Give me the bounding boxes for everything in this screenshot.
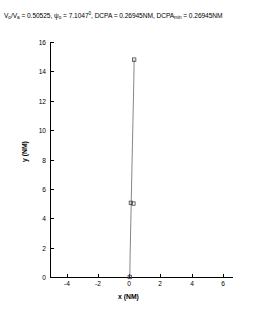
trajectory-plot [0,0,257,320]
trajectory-line [130,60,134,277]
figure-canvas: Vo/Va = 0.50525, ψo = 7.10470, DCPA = 0.… [0,0,257,320]
